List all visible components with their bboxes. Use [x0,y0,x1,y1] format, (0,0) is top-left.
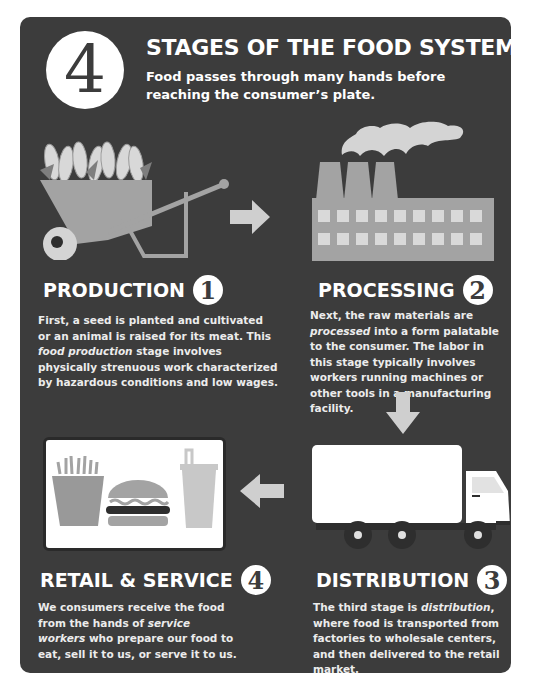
stage-4-heading: RETAIL & SERVICE 4 [40,565,271,595]
stage-1-number-badge: 1 [193,275,223,305]
page-title: STAGES OF THE FOOD SYSTEM [146,35,517,60]
stage-1-heading: PRODUCTION 1 [43,275,223,305]
wheelbarrow-with-corn-icon [36,140,236,260]
delivery-truck-icon [308,445,518,555]
stage-3-heading: DISTRIBUTION 3 [316,565,507,595]
stage-3-number-badge: 3 [477,565,507,595]
fast-food-meal-icon [46,440,223,548]
page-subtitle: Food passes through many hands before re… [146,68,496,104]
stage-3-description: The third stage is distribution, where f… [313,600,509,678]
stage-1-title: PRODUCTION [43,279,185,301]
stage-2-number-badge: 2 [463,275,493,305]
factory-icon [310,120,510,265]
stage-4-title: RETAIL & SERVICE [40,569,233,591]
arrow-down-icon [386,392,420,434]
arrow-left-icon [240,474,284,508]
stage-1-description: First, a seed is planted and cultivated … [38,313,278,391]
stage-4-number-badge: 4 [241,565,271,595]
stage-3-title: DISTRIBUTION [316,569,469,591]
header-number: 4 [64,37,106,103]
stage-4-description: We consumers receive the food from the h… [38,600,238,662]
stage-2-title: PROCESSING [318,279,455,301]
arrow-right-icon [230,200,270,234]
header-number-badge: 4 [46,31,124,109]
fast-food-meal-frame [43,437,226,551]
stage-2-heading: PROCESSING 2 [318,275,493,305]
